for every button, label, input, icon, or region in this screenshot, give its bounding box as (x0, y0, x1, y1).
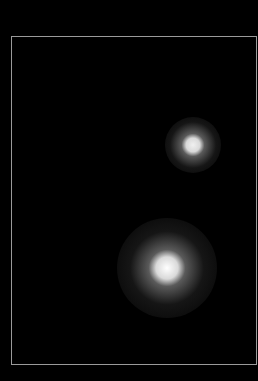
noise-texture (12, 37, 256, 364)
lower-bright-spot (117, 218, 217, 318)
image-frame (11, 36, 257, 365)
upper-bright-spot (165, 117, 221, 173)
